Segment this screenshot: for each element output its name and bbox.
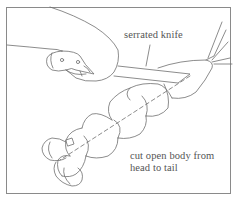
knife-label: serrated knife xyxy=(124,29,183,41)
instruction-line-2: head to tail xyxy=(130,162,230,174)
knife-label-pointer xyxy=(146,45,150,66)
cut-line xyxy=(60,76,190,160)
lobster-tail-fan xyxy=(42,138,83,186)
hand-illustration xyxy=(7,7,119,81)
instruction-label: cut open body from head to tail xyxy=(130,150,230,174)
instruction-line-1: cut open body from xyxy=(130,150,230,162)
knife-blade xyxy=(114,45,190,83)
knife-handle xyxy=(47,51,94,74)
